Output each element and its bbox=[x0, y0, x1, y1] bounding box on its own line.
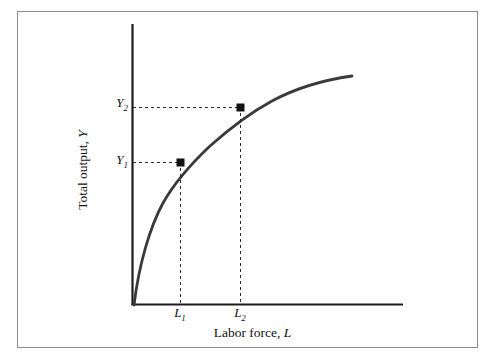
data-point-1-marker bbox=[177, 159, 185, 167]
data-point-2-marker bbox=[237, 104, 245, 112]
y-tick-label-y2: Y2 bbox=[102, 96, 128, 113]
x-axis-title: Labor force, L bbox=[160, 325, 345, 341]
x-tick-label-l2: L2 bbox=[228, 306, 252, 323]
y-axis-title: Total output, Y bbox=[74, 105, 92, 235]
production-function-figure: Y2 Y1 L1 L2 Labor force, L Total output,… bbox=[0, 0, 496, 362]
x-tick-label-l1: L1 bbox=[168, 306, 192, 323]
y-axis-title-container: Total output, Y bbox=[74, 105, 92, 235]
y-tick-label-y1: Y1 bbox=[102, 153, 128, 170]
